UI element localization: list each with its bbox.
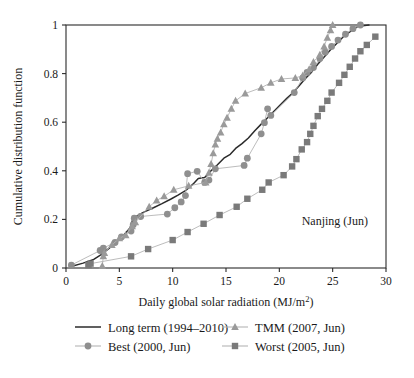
y-axis-title: Cumulative distribution function (11, 68, 25, 225)
data-point-marker (232, 97, 240, 104)
data-point-marker (319, 106, 325, 112)
data-point-marker (257, 84, 265, 91)
plot-frame (66, 25, 386, 268)
data-point-marker (98, 262, 106, 269)
data-point-marker (169, 237, 175, 243)
data-point-marker (258, 130, 265, 137)
legend-label: Long term (1994–2010) (108, 321, 228, 335)
data-point-marker (267, 112, 274, 119)
data-point-marker (217, 128, 225, 135)
data-point-marker (200, 221, 206, 227)
x-tick-label: 5 (116, 275, 122, 287)
data-point-marker (299, 146, 305, 152)
data-point-marker (328, 89, 334, 95)
legend-item[interactable]: Worst (2005, Jun) (222, 340, 345, 354)
data-point-marker (164, 211, 171, 218)
legend-label: TMM (2007, Jun) (255, 321, 345, 335)
data-point-marker (178, 199, 185, 206)
data-point-marker (324, 34, 332, 41)
data-point-marker (223, 114, 231, 121)
data-point-marker (341, 72, 347, 78)
data-point-marker (184, 229, 190, 235)
legend-label: Worst (2005, Jun) (255, 340, 345, 354)
data-point-marker (153, 196, 161, 203)
data-point-marker (315, 113, 321, 119)
data-point-marker (310, 123, 316, 129)
data-point-marker (220, 120, 228, 127)
x-tick-label: 15 (220, 275, 232, 287)
plot-annotation: Nanjing (Jun) (302, 214, 368, 228)
data-point-marker (228, 105, 236, 112)
data-point-marker (87, 260, 93, 266)
data-point-marker (207, 160, 215, 167)
series-line (70, 25, 369, 267)
data-point-marker (335, 37, 342, 44)
y-tick-label: 0.6 (44, 116, 59, 128)
x-tick-label: 0 (63, 275, 69, 287)
data-point-marker (265, 179, 271, 185)
data-point-marker (241, 162, 248, 169)
data-point-marker (244, 155, 251, 162)
axis-layer: 05101520253000.20.40.60.81 (44, 19, 392, 287)
data-point-marker (336, 80, 342, 86)
data-point-marker (324, 98, 330, 104)
chart-canvas: 05101520253000.20.40.60.81 Daily global … (0, 0, 414, 378)
data-point-marker (293, 156, 299, 162)
data-point-marker (372, 33, 378, 39)
data-point-marker (68, 262, 75, 269)
data-point-marker (350, 25, 357, 32)
data-point-marker (128, 253, 134, 259)
legend-item[interactable]: Long term (1994–2010) (75, 321, 228, 335)
data-point-marker (357, 22, 364, 29)
series-layer (68, 21, 379, 269)
data-point-marker (182, 192, 189, 199)
data-point-marker (160, 192, 168, 199)
y-tick-label: 0.8 (44, 68, 59, 80)
data-point-marker (171, 204, 178, 211)
y-tick-label: 1 (52, 19, 58, 31)
legend-item[interactable]: TMM (2007, Jun) (222, 321, 345, 335)
data-point-marker (85, 343, 92, 350)
y-tick-label: 0.4 (44, 165, 59, 177)
data-point-marker (307, 131, 313, 137)
data-point-marker (259, 187, 265, 193)
data-point-marker (100, 245, 107, 252)
x-tick-label: 25 (327, 275, 339, 287)
data-point-marker (264, 105, 271, 112)
data-point-marker (194, 168, 201, 175)
data-point-marker (145, 246, 151, 252)
data-point-marker (209, 149, 217, 156)
data-point-marker (342, 31, 349, 38)
legend-item[interactable]: Best (2000, Jun) (75, 340, 190, 354)
y-tick-label: 0.2 (44, 213, 59, 225)
data-point-marker (291, 89, 298, 96)
data-point-marker (214, 135, 222, 142)
y-tick-label: 0 (52, 262, 58, 274)
data-point-marker (328, 43, 335, 50)
data-point-marker (320, 42, 328, 49)
legend-label: Best (2000, Jun) (108, 340, 190, 354)
data-point-marker (184, 170, 191, 177)
data-point-marker (280, 172, 286, 178)
data-point-marker (244, 196, 250, 202)
legend-layer: Long term (1994–2010)TMM (2007, Jun)Best… (75, 321, 345, 354)
chart-figure: 05101520253000.20.40.60.81 Daily global … (0, 0, 414, 378)
series-1 (70, 25, 369, 267)
data-point-marker (352, 55, 358, 61)
x-tick-label: 30 (380, 275, 392, 287)
data-point-marker (364, 42, 370, 48)
data-point-marker (232, 343, 238, 349)
data-point-marker (357, 48, 363, 54)
data-point-marker (289, 163, 295, 169)
data-point-marker (261, 119, 268, 126)
data-point-marker (233, 204, 239, 210)
x-axis-title: Daily global solar radiation (MJ/m2) (139, 294, 314, 309)
data-point-marker (304, 139, 310, 145)
data-point-marker (145, 203, 153, 210)
data-point-marker (347, 64, 353, 70)
x-tick-label: 10 (167, 275, 179, 287)
data-point-marker (216, 212, 222, 218)
x-tick-label: 20 (274, 275, 286, 287)
